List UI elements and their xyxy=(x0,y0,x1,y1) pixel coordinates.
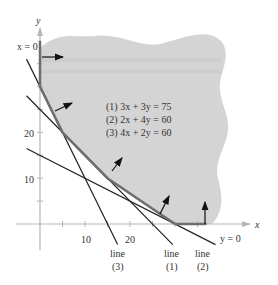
y-axis-label: y xyxy=(35,15,41,26)
line-2-number: (2) xyxy=(197,261,209,273)
y-tick-label: 10 xyxy=(24,174,34,185)
x-tick-label: 20 xyxy=(125,234,135,245)
line-3-label: line xyxy=(110,248,126,259)
equation-3: (3) 4x + 2y = 60 xyxy=(106,127,171,139)
x-zero-label: x = 0 xyxy=(17,41,38,52)
line-3-number: (3) xyxy=(112,261,124,273)
feasible-region-diagram: y x x = 0 y = 0 10 20 10 20 (1) 3x + 3y … xyxy=(0,0,278,285)
scan-streak xyxy=(40,70,222,73)
line-1-number: (1) xyxy=(166,261,178,273)
scan-streak xyxy=(40,58,222,62)
line-2-label: line xyxy=(195,248,211,259)
y-zero-label: y = 0 xyxy=(220,233,241,244)
equation-1: (1) 3x + 3y = 75 xyxy=(106,101,171,113)
equation-2: (2) 2x + 4y = 60 xyxy=(106,114,171,126)
line-1-label: line xyxy=(164,248,180,259)
x-axis-label: x xyxy=(254,219,260,230)
y-tick-label: 20 xyxy=(24,128,34,139)
x-tick-label: 10 xyxy=(81,234,91,245)
